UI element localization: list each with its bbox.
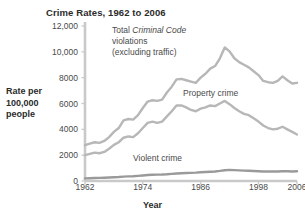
series-line-property	[85, 101, 297, 155]
series-annotation-total-italic: Criminal Code	[132, 25, 186, 35]
series-annotation-total-line-2: violations	[112, 36, 186, 47]
series-annotation-property: Property crime	[183, 88, 238, 99]
series-line-violent	[85, 170, 297, 179]
series-annotation-total-line-3: (excluding traffic)	[112, 47, 186, 58]
series-annotation-total-prefix: Total	[112, 25, 132, 35]
series-annotation-total: Total Criminal Code violations (excludin…	[112, 25, 186, 58]
chart-figure: Crime Rates, 1962 to 2006 Rate per 100,0…	[0, 0, 305, 219]
series-annotation-total-line-1: Total Criminal Code	[112, 25, 186, 36]
series-annotation-violent: Violent crime	[133, 153, 182, 164]
